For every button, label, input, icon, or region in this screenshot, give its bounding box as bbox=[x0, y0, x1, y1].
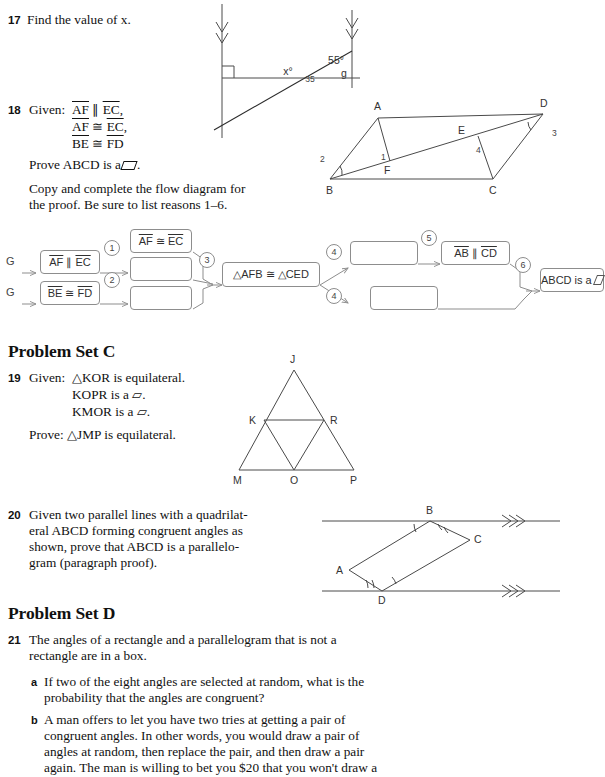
angle-mark-d-right bbox=[392, 577, 396, 584]
problem-18-prove-text: ABCD is a bbox=[63, 157, 121, 172]
figure-problem-20: B C A D bbox=[322, 492, 583, 597]
vertex-D-label: D bbox=[540, 97, 548, 109]
vertex-A-label-p20: A bbox=[336, 564, 343, 576]
figure-problem-19: J K R M O P bbox=[232, 352, 412, 487]
problem-18-number: 18 bbox=[8, 104, 20, 116]
problem-19-given-label: Given: bbox=[29, 370, 65, 387]
angle-2-arc bbox=[340, 166, 342, 175]
flow-box-conclusion[interactable]: ABCD is a bbox=[540, 268, 604, 292]
merge-final-bottom bbox=[438, 291, 532, 309]
vertex-C-label: C bbox=[489, 184, 497, 196]
parallelogram-glyph bbox=[120, 161, 137, 170]
arrow-4-up bbox=[320, 268, 348, 285]
problem-18-prove: Prove ABCD is a. bbox=[29, 157, 140, 174]
problem-18-given-line-2: AF ≅ EC, bbox=[72, 119, 127, 136]
angle-3-arc bbox=[528, 122, 531, 130]
point-E-label: E bbox=[458, 124, 465, 136]
angle-mark-d-left-2 bbox=[372, 580, 374, 588]
problem-21-part-b-line-1: A man offers to let you have two tries a… bbox=[44, 712, 345, 729]
side-AD bbox=[378, 114, 543, 118]
vertex-D-label-p20: D bbox=[378, 594, 386, 606]
merge-bottom bbox=[193, 285, 213, 309]
vertex-P-label: P bbox=[350, 474, 357, 486]
problem-17-number: 17 bbox=[8, 14, 20, 26]
segment-KO bbox=[264, 420, 294, 470]
problem-19-given-line-1: △KOR is equilateral. bbox=[72, 370, 185, 387]
problem-21-part-a-label: a bbox=[31, 676, 37, 688]
vertex-R-label: R bbox=[330, 414, 338, 426]
angle-2-label: 2 bbox=[320, 154, 325, 164]
problem-20-number: 20 bbox=[8, 509, 20, 521]
problem-19-prove-text: △JMP is equilateral. bbox=[67, 427, 176, 442]
angle-55-label: 55° bbox=[328, 54, 344, 66]
problem-18-instructions-line-2: the proof. Be sure to list reasons 1–6. bbox=[29, 197, 227, 214]
side-DA bbox=[349, 570, 382, 591]
flow-reason-5[interactable]: 5 bbox=[421, 230, 437, 246]
angle-3-label: 3 bbox=[552, 128, 557, 138]
side-DC bbox=[493, 114, 543, 179]
flow-box-af-parallel-ec[interactable]: AF ∥ EC bbox=[40, 250, 100, 274]
flow-conclusion-text: ABCD is a bbox=[541, 274, 592, 286]
problem-19-given-line-2: KOPR is a ▱. bbox=[72, 387, 146, 404]
problem-20-line-2: eral ABCD forming congruent angles as bbox=[29, 523, 243, 540]
problem-19-number: 19 bbox=[8, 372, 20, 384]
problem-18-given-line-1: AF ∥ EC, bbox=[72, 102, 123, 119]
vertex-J-label: J bbox=[290, 353, 295, 365]
flow-box-af-congruent-ec[interactable]: AF ≅ EC bbox=[130, 229, 192, 253]
problem-20-line-3: shown, prove that ABCD is a parallelo- bbox=[29, 539, 239, 556]
flow-box-blank-1[interactable] bbox=[130, 257, 192, 281]
flow-box-triangle-congruence[interactable]: △AFB ≅ △CED bbox=[222, 262, 320, 287]
figure-problem-18: A D B C E F 1 2 3 4 bbox=[318, 96, 568, 206]
flow-box-be-congruent-fd[interactable]: BE ≅ FD bbox=[40, 281, 100, 305]
vertex-B-label: B bbox=[326, 184, 333, 196]
problem-18-prove-label: Prove bbox=[29, 157, 60, 172]
angle-4-label: 4 bbox=[476, 145, 481, 155]
problem-21-part-a-line-2: probability that the angles are congruen… bbox=[44, 690, 264, 707]
flow-reason-4-upper[interactable]: 4 bbox=[326, 244, 342, 260]
problem-21-part-b-label: b bbox=[31, 714, 38, 726]
right-angle-marker bbox=[222, 66, 234, 78]
segment-EC bbox=[478, 136, 493, 179]
flow-reason-1[interactable]: 1 bbox=[104, 240, 120, 256]
point-F-label: F bbox=[384, 164, 390, 176]
vertex-C-label-p20: C bbox=[474, 533, 482, 545]
flow-parallelogram-glyph bbox=[593, 275, 605, 285]
problem-19-prove: Prove: △JMP is equilateral. bbox=[29, 427, 176, 444]
problem-21-line-1: The angles of a rectangle and a parallel… bbox=[29, 632, 337, 649]
diagonal-BD bbox=[330, 114, 543, 179]
heading-problem-set-c: Problem Set C bbox=[8, 341, 115, 362]
flow-reason-4-lower[interactable]: 4 bbox=[326, 288, 342, 304]
flow-given-marker-2: G bbox=[6, 286, 15, 298]
problem-20-line-4: gram (paragraph proof). bbox=[29, 555, 157, 572]
point-g-label: g bbox=[341, 67, 347, 79]
problem-19-prove-label: Prove: bbox=[29, 427, 64, 442]
side-BA bbox=[330, 118, 378, 179]
side-CD bbox=[382, 540, 470, 591]
problem-17-text: Find the value of x. bbox=[27, 12, 131, 29]
flow-box-blank-3[interactable] bbox=[350, 241, 418, 265]
problem-21-part-b-line-4: again. The man is willing to bet you $20… bbox=[44, 760, 377, 777]
problem-18-prove-suffix: . bbox=[137, 157, 140, 172]
problem-21-part-b-line-2: congruent angles. In other words, you wo… bbox=[44, 728, 359, 745]
problem-21-line-2: rectangle are in a box. bbox=[29, 648, 147, 665]
angle-1-label: 1 bbox=[381, 152, 386, 162]
problem-19-given-line-3: KMOR is a ▱. bbox=[72, 404, 150, 421]
flow-reason-6[interactable]: 6 bbox=[515, 257, 531, 273]
heading-problem-set-d: Problem Set D bbox=[8, 603, 115, 624]
segment-RO bbox=[294, 420, 324, 470]
flow-reason-3[interactable]: 3 bbox=[199, 252, 215, 268]
flow-reason-2[interactable]: 2 bbox=[104, 272, 120, 288]
flow-given-marker-1: G bbox=[6, 255, 15, 267]
side-AB bbox=[349, 521, 430, 570]
vertex-O-label: O bbox=[290, 474, 298, 486]
vertex-B-label-p20: B bbox=[426, 504, 433, 516]
angle-mark-d-left bbox=[366, 580, 368, 588]
vertex-A-label: A bbox=[374, 100, 381, 112]
flow-box-blank-4[interactable] bbox=[370, 286, 438, 310]
problem-18-given-line-3: BE ≅ FD bbox=[72, 136, 124, 153]
angle-x-label: x° bbox=[283, 65, 292, 77]
flow-box-ab-parallel-cd[interactable]: AB ∥ CD bbox=[441, 241, 510, 265]
vertex-M-label: M bbox=[233, 474, 242, 486]
flow-box-blank-2[interactable] bbox=[130, 286, 192, 310]
